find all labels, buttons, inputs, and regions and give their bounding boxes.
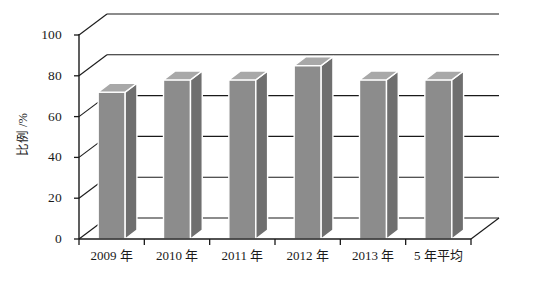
bar-column: [294, 57, 333, 239]
bar-chart-figure: 020406080100 比例 /% 2009 年2010 年2011 年201…: [0, 0, 546, 283]
x-tick-label: 5 年平均: [398, 248, 478, 263]
bar-column: [229, 71, 268, 239]
y-tick-label: 100: [20, 28, 62, 42]
x-tick-label-group: 2009 年2010 年2011 年2012 年2013 年5 年平均: [0, 248, 546, 274]
y-axis-group: [74, 34, 79, 239]
y-tick-label: 20: [20, 191, 62, 205]
bar-column: [98, 83, 137, 239]
x-axis-group: [79, 239, 471, 245]
bar-column: [164, 71, 203, 239]
y-axis-title: 比例 /%: [17, 90, 30, 180]
bars-group: [98, 57, 463, 239]
y-tick-label: 80: [20, 69, 62, 83]
chart-plot-area: [0, 0, 546, 283]
bar-column: [360, 71, 399, 239]
bar-column: [425, 71, 464, 239]
y-tick-label: 0: [20, 232, 62, 246]
